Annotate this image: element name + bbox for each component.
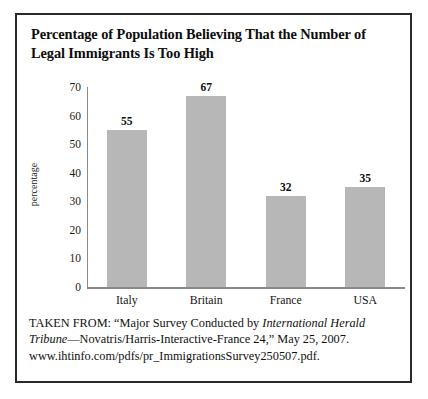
x-axis-tick-labels: ItalyBritainFranceUSA [87,293,405,313]
bar-value-label: 55 [121,115,133,127]
y-tick-label: 40 [47,167,81,179]
figure-frame: Percentage of Population Believing That … [15,13,412,383]
y-tick-label: 50 [47,138,81,150]
x-tick-label: France [270,293,302,308]
chart-plot-area: percentage 010203040506070 55673235 Ital… [17,87,410,302]
bar [186,96,226,287]
bar-value-label: 35 [360,172,372,184]
source-citation: TAKEN FROM: “Major Survey Conducted by I… [29,315,401,364]
y-tick-label: 70 [47,81,81,93]
bar [345,187,385,287]
bar-group: 32 [246,87,326,287]
y-tick-label: 30 [47,195,81,207]
bar-group: 35 [326,87,406,287]
x-tick-label: USA [353,293,377,308]
source-suffix: —Novatris/Harris-Interactive-France 24,”… [29,332,349,362]
y-tick-label: 0 [47,281,81,293]
chart-title: Percentage of Population Believing That … [31,25,397,63]
bar [107,130,147,287]
bar [266,196,306,287]
bar-value-label: 32 [280,181,292,193]
bar-series: 55673235 [87,87,405,287]
x-axis-line [87,287,405,289]
y-tick-label: 60 [47,110,81,122]
y-tick-label: 20 [47,224,81,236]
source-prefix: TAKEN FROM: “Major Survey Conducted by [29,316,262,330]
y-axis-tick-labels: 010203040506070 [47,87,81,287]
x-tick-label: Britain [190,293,223,308]
bar-value-label: 67 [201,81,213,93]
y-axis-title: percentage [28,145,39,225]
bar-group: 67 [167,87,247,287]
bar-group: 55 [87,87,167,287]
x-tick-label: Italy [116,293,138,308]
y-tick-label: 10 [47,252,81,264]
